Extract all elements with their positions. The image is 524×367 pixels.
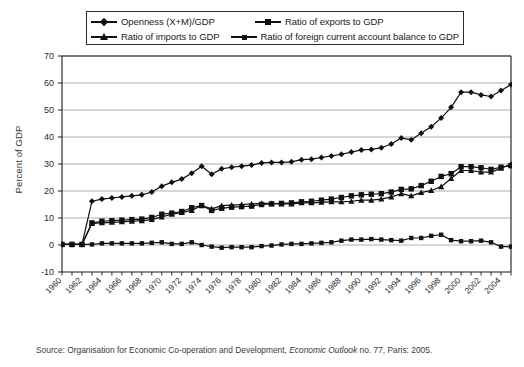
- chart-legend: Openness (X+M)/GDP Ratio of exports to G…: [86, 11, 464, 45]
- svg-text:1980: 1980: [243, 275, 263, 295]
- diamond-marker-icon: [91, 16, 117, 27]
- svg-text:2000: 2000: [442, 275, 462, 295]
- chart-canvas: -100102030405060701960196219641966196819…: [0, 46, 524, 318]
- svg-text:1988: 1988: [323, 275, 343, 295]
- plot-area: Percent of GDP -100102030405060701960196…: [0, 46, 524, 318]
- legend-entry-balance: Ratio of foreign current account balance…: [231, 29, 460, 44]
- svg-text:2002: 2002: [462, 275, 482, 295]
- svg-text:1996: 1996: [402, 275, 422, 295]
- svg-text:20: 20: [44, 186, 54, 196]
- triangle-marker-icon: [91, 31, 117, 42]
- legend-entry-imports: Ratio of imports to GDP: [91, 29, 231, 44]
- svg-text:-10: -10: [41, 267, 54, 277]
- svg-text:1976: 1976: [203, 275, 223, 295]
- source-publication: Economic Outlook: [289, 345, 357, 355]
- legend-label-openness: Openness (X+M)/GDP: [121, 16, 215, 27]
- svg-text:0: 0: [49, 240, 54, 250]
- svg-text:1998: 1998: [422, 275, 442, 295]
- legend-label-imports: Ratio of imports to GDP: [121, 31, 219, 42]
- legend-label-exports: Ratio of exports to GDP: [285, 16, 383, 27]
- svg-text:1990: 1990: [342, 275, 362, 295]
- svg-text:1960: 1960: [43, 275, 63, 295]
- legend-row-1: Openness (X+M)/GDP Ratio of exports to G…: [91, 14, 459, 29]
- svg-text:1964: 1964: [83, 275, 103, 295]
- svg-text:1994: 1994: [382, 275, 402, 295]
- svg-text:1962: 1962: [63, 275, 83, 295]
- legend-label-balance: Ratio of foreign current account balance…: [261, 31, 460, 42]
- svg-text:40: 40: [44, 132, 54, 142]
- svg-text:1974: 1974: [183, 275, 203, 295]
- figure-openness-chart: Openness (X+M)/GDP Ratio of exports to G…: [0, 0, 524, 367]
- svg-text:1966: 1966: [103, 275, 123, 295]
- svg-text:10: 10: [44, 213, 54, 223]
- svg-text:1968: 1968: [123, 275, 143, 295]
- svg-text:1982: 1982: [263, 275, 283, 295]
- svg-text:1970: 1970: [143, 275, 163, 295]
- source-suffix: no. 77, Paris: 2005.: [357, 345, 432, 355]
- small-square-marker-icon: [231, 31, 257, 42]
- svg-text:70: 70: [44, 51, 54, 61]
- svg-text:1978: 1978: [223, 275, 243, 295]
- svg-text:1992: 1992: [362, 275, 382, 295]
- svg-text:30: 30: [44, 159, 54, 169]
- legend-entry-exports: Ratio of exports to GDP: [255, 14, 383, 29]
- source-note: Source: Organisation for Economic Co-ope…: [36, 345, 432, 355]
- legend-entry-openness: Openness (X+M)/GDP: [91, 14, 255, 29]
- svg-text:1972: 1972: [163, 275, 183, 295]
- svg-text:2004: 2004: [482, 275, 502, 295]
- legend-row-2: Ratio of imports to GDP Ratio of foreign…: [91, 29, 459, 44]
- svg-text:60: 60: [44, 78, 54, 88]
- svg-text:1986: 1986: [303, 275, 323, 295]
- source-prefix: Source: Organisation for Economic Co-ope…: [36, 345, 289, 355]
- svg-text:1984: 1984: [283, 275, 303, 295]
- svg-text:50: 50: [44, 105, 54, 115]
- square-marker-icon: [255, 16, 281, 27]
